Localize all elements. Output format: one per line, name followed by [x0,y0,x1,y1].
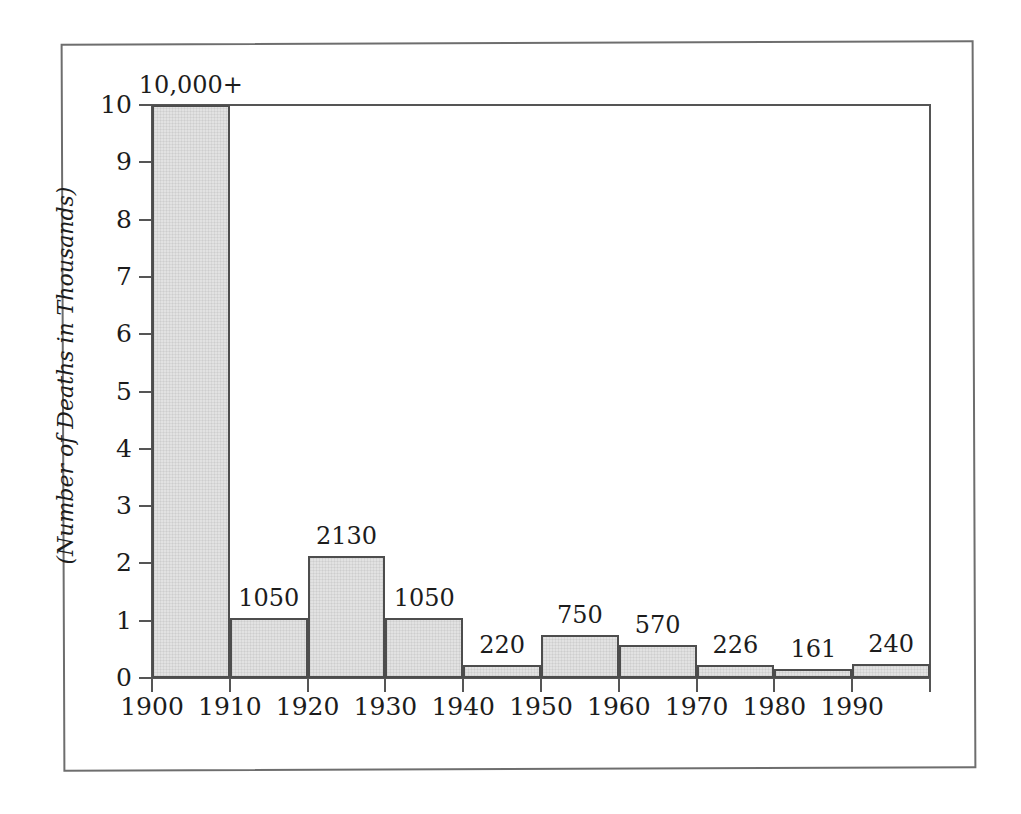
x-axis-tick [462,678,464,692]
y-axis-tick-label: 3 [92,493,132,518]
x-axis-tick [773,678,775,692]
x-axis-tick-label: 1950 [496,694,586,719]
y-axis-tick-label: 9 [92,149,132,174]
y-axis-tick-label: 2 [92,550,132,575]
x-axis-tick-label: 1900 [107,694,197,719]
y-axis-tick [139,219,152,221]
x-axis-tick [540,678,542,692]
x-axis-tick [929,678,931,692]
bar [230,618,308,678]
y-axis-tick [139,620,152,622]
y-axis-tick-label: 7 [92,264,132,289]
plot-right-border [929,104,931,679]
y-axis-tick-label: 6 [92,321,132,346]
x-axis-tick-label: 1960 [574,694,664,719]
y-axis-tick-label: 8 [92,207,132,232]
x-axis-tick-label: 1990 [807,694,897,719]
x-axis-tick-label: 1930 [340,694,430,719]
x-axis-tick [229,678,231,692]
bar [774,669,852,678]
bar [541,635,619,678]
x-axis-tick [696,678,698,692]
x-axis-tick [384,678,386,692]
y-axis-tick-label: 1 [92,608,132,633]
x-axis-tick [851,678,853,692]
x-axis-tick [618,678,620,692]
y-axis-tick-label: 5 [92,379,132,404]
y-axis-tick [139,505,152,507]
figure-root: (Number of Deaths in Thousands) 01234567… [0,0,1021,814]
x-axis-tick [307,678,309,692]
bar-value-label: 10,000+ [122,73,260,97]
bar [697,665,775,678]
y-axis-tick [139,104,152,106]
y-axis-tick-label: 0 [92,665,132,690]
bar [852,664,930,678]
x-axis-tick-label: 1910 [185,694,275,719]
x-axis-tick [151,678,153,692]
y-axis-tick [139,448,152,450]
bar [463,665,541,678]
x-axis-tick-label: 1980 [729,694,819,719]
bar-value-label: 2130 [278,524,416,548]
y-axis-tick [139,333,152,335]
y-axis-tick [139,391,152,393]
y-axis-tick [139,562,152,564]
bar-value-label: 1050 [355,586,493,610]
y-axis-tick [139,161,152,163]
x-axis-tick-label: 1940 [418,694,508,719]
x-axis-tick-label: 1970 [652,694,742,719]
bar-value-label: 240 [822,632,960,656]
bar-chart: (Number of Deaths in Thousands) 01234567… [0,0,1021,814]
y-axis-tick-label: 4 [92,436,132,461]
y-axis-tick [139,276,152,278]
x-axis-tick-label: 1920 [263,694,353,719]
y-axis-title: (Number of Deaths in Thousands) [53,245,78,565]
bar [308,556,386,678]
plot-top-border [152,104,931,106]
